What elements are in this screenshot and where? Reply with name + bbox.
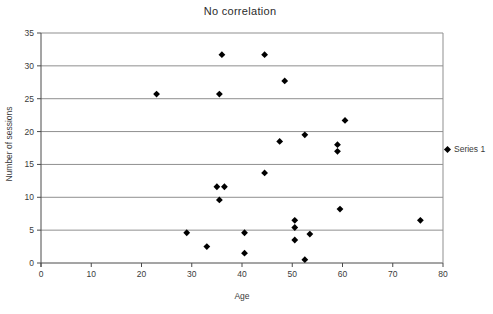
- data-point: [334, 148, 341, 155]
- series1-diamond-icon: [444, 145, 451, 152]
- data-point: [281, 78, 288, 85]
- chart-container: No correlation Number of sessions 051015…: [0, 0, 493, 314]
- scatter-plot-area: 0510152025303501020304050607080: [0, 0, 493, 314]
- y-tick-label: 0: [29, 258, 34, 268]
- x-tick-label: 10: [87, 269, 97, 279]
- data-point: [261, 170, 268, 177]
- data-point: [153, 91, 160, 98]
- x-tick-label: 60: [338, 269, 348, 279]
- data-point: [337, 206, 344, 213]
- y-tick-label: 30: [25, 61, 35, 71]
- data-point: [221, 183, 228, 190]
- legend: Series 1: [445, 144, 485, 154]
- y-tick-label: 20: [25, 127, 35, 137]
- data-point: [216, 91, 223, 98]
- y-tick-label: 25: [25, 94, 35, 104]
- data-point: [301, 256, 308, 263]
- data-point: [301, 131, 308, 138]
- data-point: [342, 117, 349, 124]
- x-tick-label: 0: [39, 269, 44, 279]
- data-point: [417, 217, 424, 224]
- x-tick-label: 80: [438, 269, 448, 279]
- x-tick-label: 70: [388, 269, 398, 279]
- y-tick-label: 15: [25, 159, 35, 169]
- y-tick-label: 10: [25, 192, 35, 202]
- y-tick-label: 5: [29, 225, 34, 235]
- x-tick-label: 30: [187, 269, 197, 279]
- data-point: [261, 51, 268, 58]
- data-point: [219, 51, 226, 58]
- data-point: [241, 250, 248, 257]
- x-tick-label: 40: [237, 269, 247, 279]
- x-tick-label: 20: [137, 269, 147, 279]
- x-tick-label: 50: [288, 269, 298, 279]
- y-tick-label: 35: [25, 28, 35, 38]
- data-point: [334, 141, 341, 148]
- data-point: [291, 217, 298, 224]
- data-point: [213, 183, 220, 190]
- data-point: [306, 231, 313, 238]
- legend-series-label: Series 1: [454, 144, 485, 154]
- data-point: [203, 243, 210, 250]
- data-point: [276, 138, 283, 145]
- x-axis-label: Age: [0, 291, 484, 301]
- data-point: [291, 237, 298, 244]
